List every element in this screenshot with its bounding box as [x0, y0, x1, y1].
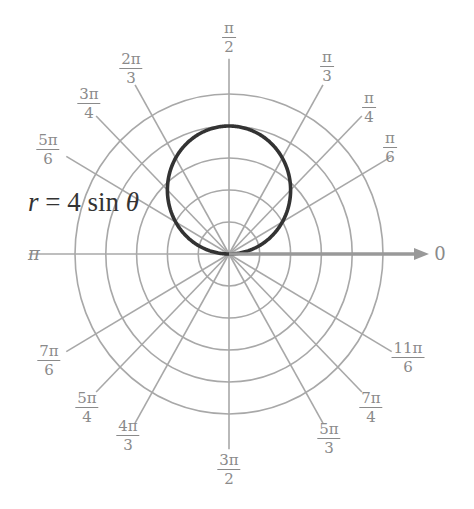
- angle-label-225: 5π4: [75, 391, 98, 425]
- spoke-225: [96, 254, 229, 392]
- spoke-135: [96, 116, 229, 254]
- angle-label-150: 5π6: [36, 133, 59, 167]
- angle-label-135: 3π4: [77, 87, 100, 121]
- angle-label-330: 11π6: [392, 341, 425, 375]
- spoke-240: [135, 254, 229, 423]
- angle-label-120: 2π3: [119, 52, 142, 86]
- spoke-210: [66, 254, 229, 352]
- angle-label-315: 7π4: [359, 391, 382, 425]
- angle-label-90: π2: [222, 21, 236, 55]
- angle-label-300: 5π3: [317, 422, 340, 456]
- spoke-330: [229, 254, 392, 352]
- angle-label-30: π6: [383, 131, 397, 165]
- spoke-315: [229, 254, 362, 392]
- spoke-300: [229, 254, 323, 423]
- arrowhead-icon: [414, 248, 429, 260]
- angle-label-240: 4π3: [116, 419, 139, 453]
- angle-label-210: 7π6: [37, 344, 60, 378]
- angle-label-60: π3: [320, 50, 334, 84]
- angle-label-0: 0: [434, 245, 445, 263]
- spoke-30: [229, 156, 392, 254]
- angle-label-45: π4: [362, 91, 376, 125]
- angle-label-270: 3π2: [217, 453, 240, 487]
- equation-label: r = 4 sin θ: [28, 187, 139, 218]
- spoke-45: [229, 116, 362, 254]
- angle-label-180: π: [28, 245, 40, 263]
- polar-chart: [0, 0, 474, 509]
